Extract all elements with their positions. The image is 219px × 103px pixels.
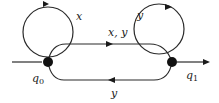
label-loop-q0: x — [76, 10, 83, 23]
arrow-right-icon — [203, 59, 210, 65]
edge-q1-q0 — [48, 62, 172, 83]
label-edge-q0-q1: x, y — [108, 26, 128, 39]
label-q1: q1 — [186, 69, 198, 83]
final-arrow — [177, 59, 210, 65]
arrow-right-icon — [43, 1, 49, 7]
arrow-right-icon — [165, 4, 172, 10]
arrow-right-icon — [106, 41, 113, 47]
edge-q0-q1 — [48, 41, 172, 62]
state-q1 — [167, 57, 177, 67]
label-q0: q0 — [32, 72, 44, 86]
label-loop-q1: y — [136, 9, 144, 22]
state-q0 — [43, 57, 53, 67]
arrow-left-icon — [108, 77, 115, 83]
loop-q0 — [23, 1, 73, 57]
automaton-diagram: q0 q1 x x, y y y — [0, 0, 219, 103]
label-edge-q1-q0: y — [110, 87, 118, 100]
